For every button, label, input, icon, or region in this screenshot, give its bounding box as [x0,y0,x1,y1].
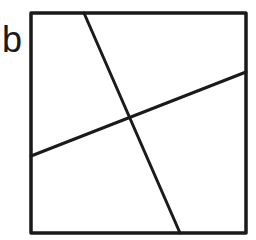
steep-line [84,13,180,233]
diagram-canvas [0,0,256,240]
square-frame [31,13,246,233]
shallow-line [31,72,246,156]
